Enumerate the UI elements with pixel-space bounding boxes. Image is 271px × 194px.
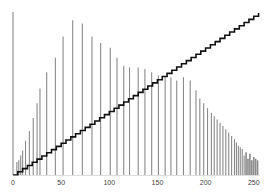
- histogram-bars: [13, 12, 258, 175]
- cumulative-step-line: [13, 13, 259, 175]
- x-tick-label: 250: [248, 179, 260, 186]
- x-tick-label: 200: [200, 179, 212, 186]
- x-tick-label: 100: [103, 179, 115, 186]
- x-axis-tick-labels: 050100150200250: [11, 179, 260, 186]
- histogram-chart: 050100150200250: [0, 0, 271, 194]
- x-tick-label: 0: [11, 179, 15, 186]
- x-tick-label: 50: [57, 179, 65, 186]
- x-tick-label: 150: [152, 179, 164, 186]
